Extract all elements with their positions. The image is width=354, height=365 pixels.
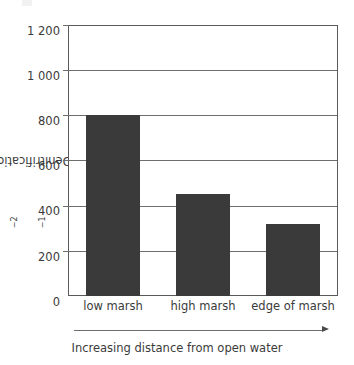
distance-arrow-line bbox=[74, 330, 324, 331]
bar-low-marsh bbox=[86, 115, 140, 296]
y-tick-label-1200: 1 200 bbox=[27, 24, 60, 38]
x-category-label-edge-of-marsh: edge of marsh bbox=[248, 301, 338, 313]
x-category-label-high-marsh: high marsh bbox=[158, 301, 248, 313]
y-tick-label-400: 400 bbox=[38, 204, 60, 218]
x-category-label-low-marsh: low marsh bbox=[68, 301, 158, 313]
y-tick-label-200: 200 bbox=[38, 250, 60, 264]
bar-high-marsh bbox=[176, 194, 230, 296]
x-axis-caption: Increasing distance from open water bbox=[0, 341, 354, 355]
y-tick-label-800: 800 bbox=[38, 114, 60, 128]
y-tick-label-0: 0 bbox=[53, 295, 60, 309]
y-tick-label-600: 600 bbox=[38, 159, 60, 173]
scan-artifact bbox=[22, 0, 32, 6]
y-tick-label-1000: 1 000 bbox=[27, 69, 60, 83]
bar-edge-of-marsh bbox=[266, 224, 320, 296]
denitrification-bar-chart: Denitrification / µg N m−2 h−1 1 200 1 0… bbox=[0, 0, 354, 365]
right-arrow-icon bbox=[322, 326, 329, 332]
bars-layer bbox=[68, 25, 338, 296]
